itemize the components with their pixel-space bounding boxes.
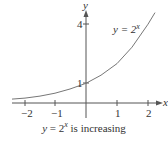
- xtick-label-1: 1: [115, 107, 121, 119]
- y-axis-label: y: [82, 0, 88, 11]
- xtick-label-2: 2: [146, 107, 152, 119]
- ytick-label-4: 4: [77, 18, 83, 30]
- curve-label: y = 2x: [112, 22, 140, 35]
- x-axis-label: x: [162, 96, 168, 108]
- ytick-label-1: 1: [77, 77, 83, 89]
- xtick-label-neg1: −1: [51, 107, 63, 119]
- chart-caption: y = 2x is increasing: [0, 120, 168, 134]
- y-axis-arrow-icon: [84, 10, 89, 17]
- xtick-label-neg2: −2: [21, 107, 33, 119]
- x-axis-arrow-icon: [156, 101, 163, 106]
